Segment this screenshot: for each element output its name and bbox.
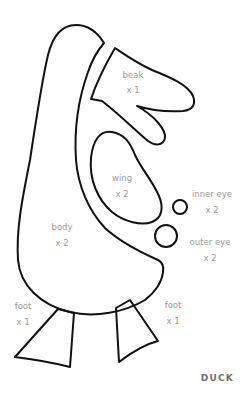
- outer-eye-count: x 2: [203, 254, 216, 263]
- foot-left-count: x 1: [16, 318, 29, 327]
- inner-eye-piece-outline: [173, 200, 187, 214]
- body-label: body: [51, 223, 72, 232]
- outer-eye-piece-outline: [155, 225, 177, 247]
- beak-label: beak: [123, 71, 144, 80]
- inner-eye-label: inner eye: [192, 190, 232, 199]
- wing-count: x 2: [115, 190, 128, 199]
- beak-piece-outline: [91, 48, 194, 144]
- foot-left-label: foot: [15, 302, 32, 311]
- foot-right-label: foot: [165, 301, 182, 310]
- outer-eye-label: outer eye: [190, 238, 231, 247]
- body-count: x 2: [55, 239, 68, 248]
- wing-label: wing: [112, 174, 132, 183]
- foot-right-count: x 1: [166, 317, 179, 326]
- beak-count: x 1: [126, 86, 139, 95]
- pattern-title: DUCK: [201, 373, 234, 383]
- inner-eye-count: x 2: [205, 206, 218, 215]
